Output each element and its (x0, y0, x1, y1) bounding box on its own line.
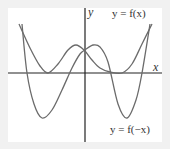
x-axis-label: x (153, 60, 158, 75)
label-f-of-x: y = f(x) (112, 7, 146, 19)
label-f-of-neg-x: y = f(−x) (110, 123, 150, 135)
curve-f-of-neg-x (22, 24, 150, 118)
y-axis-label: y (88, 5, 93, 20)
